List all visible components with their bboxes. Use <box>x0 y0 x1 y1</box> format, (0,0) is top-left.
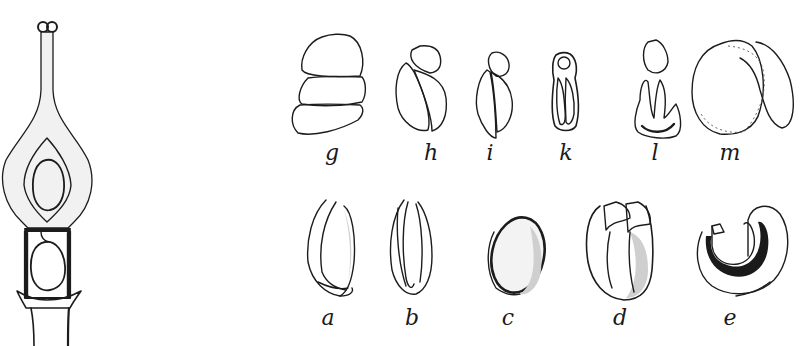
panel-label-c: c <box>502 307 514 329</box>
botanical-figure-plate: g h i k l m a b c d e <box>0 0 807 346</box>
panel-m-drawing <box>692 41 793 135</box>
panel-c-drawing <box>485 212 552 297</box>
figure-drawings <box>0 0 807 346</box>
panel-label-l: l <box>651 142 658 164</box>
panel-b-drawing <box>391 200 433 294</box>
panel-d-drawing <box>587 202 653 300</box>
panel-label-i: i <box>486 142 493 164</box>
panel-g-drawing <box>292 34 365 134</box>
panel-k-drawing <box>552 53 578 131</box>
panel-label-a: a <box>321 307 334 329</box>
panel-e-drawing <box>697 206 787 296</box>
panel-label-d: d <box>613 307 627 329</box>
panel-a-drawing <box>308 200 355 296</box>
panel-l-drawing <box>635 40 681 138</box>
panel-i-drawing <box>476 52 512 138</box>
panel-h-drawing <box>396 46 446 131</box>
panel-label-g: g <box>325 142 339 164</box>
panel-label-b: b <box>405 307 419 329</box>
panel-label-h: h <box>424 142 438 164</box>
pistil-drawing <box>3 22 92 346</box>
panel-label-k: k <box>559 142 572 164</box>
panel-label-m: m <box>720 142 741 164</box>
panel-label-e: e <box>723 307 736 329</box>
